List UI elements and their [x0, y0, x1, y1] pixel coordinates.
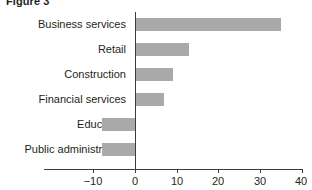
category-label-retail: Retail [0, 37, 130, 62]
bar-education [102, 118, 135, 131]
x-tick-20 [218, 169, 219, 173]
chart-row: Financial services [0, 87, 312, 112]
x-tick-label-minus-10: −10 [84, 175, 103, 187]
x-tick-label-0: 0 [132, 175, 138, 187]
chart-row: Business services [0, 12, 312, 37]
chart-row: Construction [0, 62, 312, 87]
chart-row: Education [0, 112, 312, 137]
bar-construction [135, 68, 173, 81]
x-axis-line [44, 169, 302, 170]
bar-chart: Business services Retail Construction Fi… [0, 12, 312, 190]
figure-panel: Figure 3 Business services Retail Constr… [0, 0, 312, 190]
zero-axis-line [135, 12, 136, 170]
category-label-financial-services: Financial services [0, 87, 130, 112]
bar-public-administration [102, 143, 135, 156]
bar-business-services [135, 18, 281, 31]
x-tick-0 [135, 169, 136, 173]
x-tick-label-40: 40 [295, 175, 307, 187]
bar-financial-services [135, 93, 164, 106]
category-label-business-services: Business services [0, 12, 130, 37]
x-tick-label-20: 20 [212, 175, 224, 187]
x-tick-40 [302, 169, 303, 173]
bar-retail [135, 43, 189, 56]
x-tick-label-30: 30 [254, 175, 266, 187]
chart-row: Retail [0, 37, 312, 62]
x-tick-label-10: 10 [171, 175, 183, 187]
x-tick-minus-10 [93, 169, 94, 173]
page-title: Figure 3 [6, 0, 50, 7]
x-tick-30 [260, 169, 261, 173]
category-label-construction: Construction [0, 62, 130, 87]
chart-row: Public administration [0, 137, 312, 162]
x-tick-10 [177, 169, 178, 173]
